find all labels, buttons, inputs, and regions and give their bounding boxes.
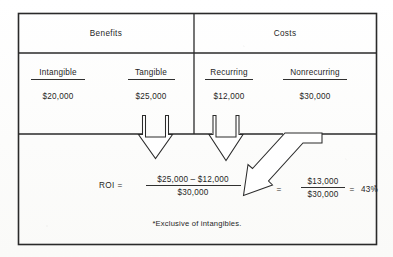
column-header-intangible: Intangible: [39, 68, 77, 77]
outer-border: [19, 14, 377, 245]
formula-denominator: $30,000: [178, 188, 209, 197]
column-header-nonrecurring: Nonrecurring: [290, 68, 340, 77]
figure-page: Benefits Costs Intangible $20,000 Tangib…: [0, 0, 393, 257]
result-equals: =: [350, 185, 355, 194]
formula-equals: =: [277, 185, 282, 194]
recurring-down-arrow: [209, 116, 243, 161]
roi-diagram: Benefits Costs Intangible $20,000 Tangib…: [0, 0, 393, 257]
amount-nonrecurring: $30,000: [300, 92, 331, 101]
costs-header: Costs: [274, 29, 297, 38]
roi-label: ROI =: [99, 181, 123, 190]
amount-recurring: $12,000: [214, 92, 245, 101]
nonrecurring-diagonal-arrow: [244, 133, 323, 196]
tangible-down-arrow: [139, 116, 173, 159]
amount-intangible: $20,000: [43, 92, 74, 101]
benefits-header: Benefits: [90, 29, 122, 38]
result-denominator: $30,000: [308, 190, 339, 199]
result-numerator: $13,000: [308, 177, 339, 186]
formula-numerator: $25,000 – $12,000: [157, 175, 229, 184]
column-header-recurring: Recurring: [210, 68, 248, 77]
column-header-tangible: Tangible: [135, 68, 167, 77]
footnote: *Exclusive of intangibles.: [152, 219, 241, 228]
amount-tangible: $25,000: [136, 92, 167, 101]
